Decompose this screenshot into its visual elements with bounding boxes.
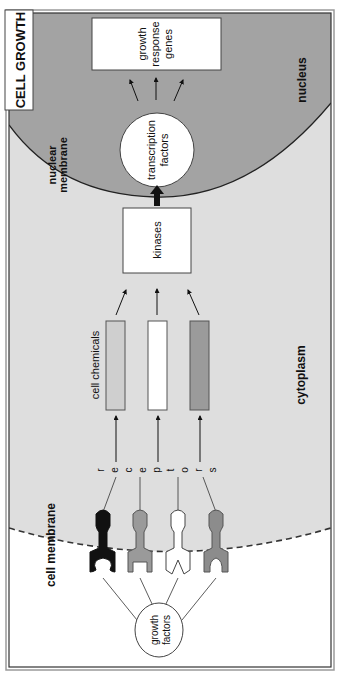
- svg-text:t: t: [165, 468, 176, 471]
- diagram-title: CELL GROWTH: [13, 12, 28, 109]
- cell-growth-diagram: CELL GROWTH growth response genes transc…: [0, 0, 340, 675]
- svg-text:factors: factors: [161, 615, 172, 645]
- svg-text:growth: growth: [149, 615, 160, 645]
- transcription-factors-node: [120, 113, 194, 187]
- cytoplasm-label: cytoplasm: [294, 345, 308, 404]
- cell-chemicals-label: cell chemicals: [89, 330, 101, 399]
- svg-text:o: o: [179, 467, 190, 473]
- svg-text:s: s: [207, 468, 218, 473]
- cell-chemical-bar-dark: [190, 321, 209, 410]
- thick-arrow-shaft: [154, 193, 160, 206]
- svg-text:e: e: [109, 467, 120, 473]
- cell-chemical-bar-light: [106, 321, 125, 410]
- svg-text:p: p: [151, 467, 162, 473]
- svg-text:transcription: transcription: [145, 120, 157, 180]
- svg-text:growth: growth: [136, 27, 148, 60]
- nucleus-label: nucleus: [295, 57, 309, 103]
- cell-membrane-label: cell membrane: [44, 503, 58, 587]
- kinases-label: kinases: [151, 221, 163, 259]
- svg-text:membrane: membrane: [57, 137, 69, 193]
- svg-text:genes: genes: [162, 29, 174, 59]
- growth-factors-label: growth factors: [149, 615, 172, 645]
- svg-text:e: e: [137, 467, 148, 473]
- nuclear-membrane-label: nuclear membrane: [46, 137, 69, 193]
- svg-text:factors: factors: [158, 133, 170, 167]
- svg-text:c: c: [123, 468, 134, 473]
- cell-chemical-bar-white: [148, 321, 167, 410]
- svg-text:response: response: [149, 21, 161, 66]
